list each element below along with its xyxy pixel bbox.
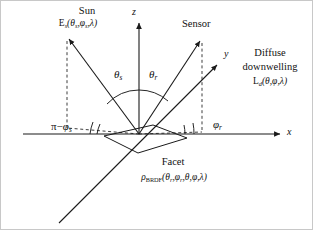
y-axis-label: y: [224, 49, 228, 60]
phi-r-subscript: r: [219, 124, 222, 132]
phi-s-arc-outer: [90, 122, 93, 134]
facet-parallelogram: [104, 125, 187, 153]
facet-brdf-formula: ρBRDF(θr,φr,θ,φ,λ): [122, 173, 226, 183]
sun-formula-paren-close: ): [94, 18, 97, 28]
sun-title-label: Sun: [57, 5, 117, 16]
y-axis-line: [59, 65, 217, 223]
theta-s-label: θs: [114, 69, 122, 83]
brdf-subscript: BRDF: [146, 176, 162, 183]
phi-s-arc: [97, 124, 100, 134]
diffuse-radiance-formula: Ld(θ,φ,λ): [233, 77, 307, 87]
diffuse-formula-paren-close: ): [284, 76, 287, 86]
facet-title-label: Facet: [143, 156, 203, 167]
z-axis-label: z: [132, 7, 136, 18]
phi-s-subscript: s: [69, 126, 72, 134]
diffuse-line1-label: Diffuse: [232, 47, 308, 58]
x-axis-label: x: [287, 127, 291, 138]
phi-r-label: φr: [213, 119, 222, 133]
phi-s-label: π−φs: [51, 121, 72, 135]
sensor-title-label: Sensor: [182, 18, 211, 29]
brdf-paren-close: ): [204, 172, 207, 182]
theta-r-subscript: r: [154, 74, 157, 82]
diffuse-line2-label: downwelling: [225, 61, 313, 72]
sun-irradiance-formula: Es(θs,φs,λ): [39, 19, 117, 29]
diagram-canvas: [1, 1, 313, 230]
theta-s-subscript: s: [119, 74, 122, 82]
sun-ray: [69, 39, 139, 134]
phi-r-arc-outer: [193, 123, 194, 134]
theta-r-label: θr: [149, 69, 157, 83]
sensor-ray: [139, 41, 200, 134]
brdf-geometry-figure: Sun Es(θs,φs,λ) Sensor z y x Diffuse dow…: [0, 0, 313, 230]
